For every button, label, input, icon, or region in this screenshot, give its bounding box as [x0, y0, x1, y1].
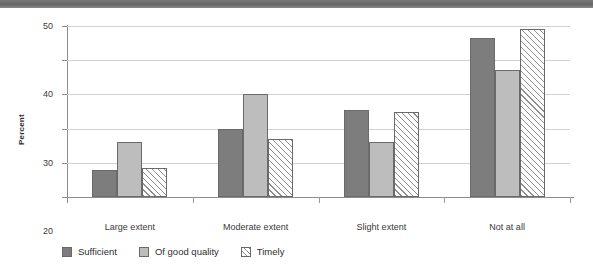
top-decorative-band — [0, 0, 593, 8]
legend-label: Timely — [257, 246, 285, 257]
bar-sufficient-large-extent[interactable] — [92, 170, 117, 197]
legend-swatch-icon — [139, 247, 149, 257]
y-axis-tick-label: 20 — [43, 226, 53, 236]
y-axis-tick-mark: 10 — [62, 163, 67, 164]
y-axis-title: Percent — [14, 100, 28, 160]
x-axis-tick-mark — [444, 197, 445, 203]
x-axis-category-label: Not at all — [489, 222, 525, 232]
legend-label: Of good quality — [155, 246, 219, 257]
bar-timely-large-extent[interactable] — [142, 168, 167, 197]
y-axis-tick-mark: 30 — [62, 94, 67, 95]
bar-of-good-quality-large-extent[interactable] — [117, 142, 142, 197]
plot-area: 01020304050Large extentModerate extentSl… — [67, 26, 570, 197]
legend-item-of-good-quality[interactable]: Of good quality — [139, 246, 219, 257]
bar-group — [92, 26, 167, 197]
y-axis-tick-label: 30 — [43, 158, 53, 168]
bar-timely-not-at-all[interactable] — [520, 29, 545, 197]
bar-of-good-quality-not-at-all[interactable] — [495, 70, 520, 197]
chart-legend: SufficientOf good qualityTimely — [62, 246, 284, 257]
y-axis-tick-mark: 40 — [62, 60, 67, 61]
bar-group — [344, 26, 419, 197]
bar-timely-slight-extent[interactable] — [394, 112, 419, 197]
legend-swatch-icon — [62, 247, 72, 257]
y-axis-tick-mark: 0 — [62, 197, 67, 198]
legend-item-sufficient[interactable]: Sufficient — [62, 246, 117, 257]
bar-sufficient-slight-extent[interactable] — [344, 110, 369, 197]
legend-swatch-icon — [241, 247, 251, 257]
bar-sufficient-not-at-all[interactable] — [470, 38, 495, 197]
x-axis-category-label: Large extent — [105, 222, 155, 232]
y-axis-tick-mark: 50 — [62, 26, 67, 27]
bar-timely-moderate-extent[interactable] — [268, 139, 293, 197]
y-axis-line — [67, 25, 68, 203]
top-band-shading — [0, 0, 593, 8]
y-axis-tick-mark: 20 — [62, 129, 67, 130]
x-axis-tick-mark — [193, 197, 194, 203]
x-axis-category-label: Moderate extent — [223, 222, 288, 232]
y-axis-tick-label: 40 — [43, 89, 53, 99]
bar-group — [470, 26, 545, 197]
bar-chart-figure: Percent 01020304050Large extentModerate … — [0, 8, 593, 270]
bar-of-good-quality-moderate-extent[interactable] — [243, 94, 268, 197]
bar-sufficient-moderate-extent[interactable] — [218, 129, 243, 197]
bar-of-good-quality-slight-extent[interactable] — [369, 142, 394, 197]
legend-item-timely[interactable]: Timely — [241, 246, 285, 257]
x-axis-category-label: Slight extent — [357, 222, 407, 232]
x-axis-tick-mark — [570, 197, 571, 203]
x-axis-tick-mark — [319, 197, 320, 203]
y-axis-tick-label: 50 — [43, 21, 53, 31]
bar-group — [218, 26, 293, 197]
legend-label: Sufficient — [78, 246, 117, 257]
